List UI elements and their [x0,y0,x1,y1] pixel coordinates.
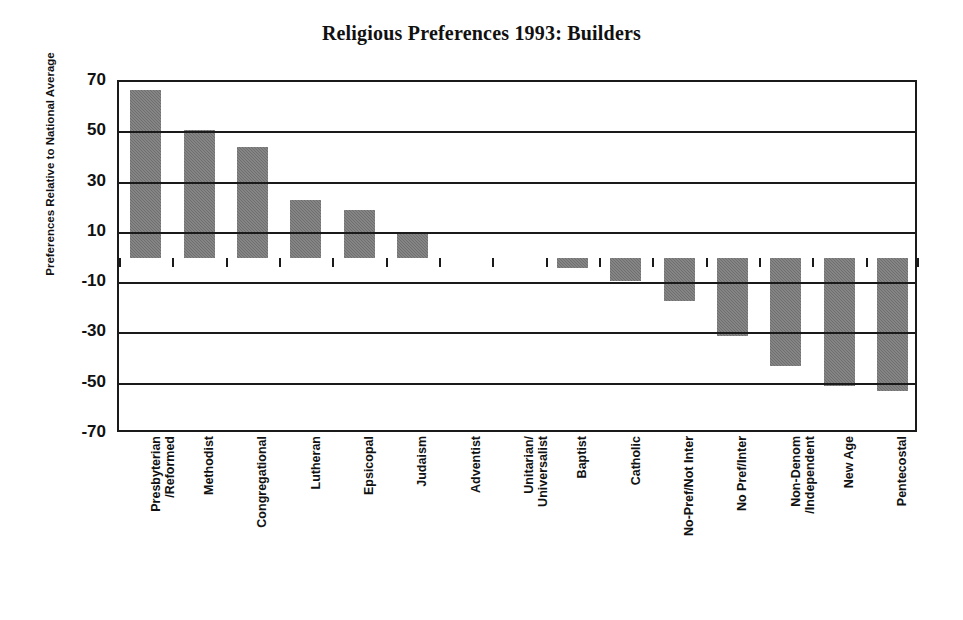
x-tick-mark [599,258,601,267]
y-tick-label: -50 [42,372,106,392]
x-axis-label: Judaism [416,436,430,606]
gridline--50 [119,383,915,385]
x-tick-mark [226,258,228,267]
bar [290,200,321,258]
x-tick-mark [812,258,814,267]
gridline-30 [119,182,915,184]
x-axis-label: Pentecostal [896,436,910,606]
x-axis-label: Epsicopal [363,436,377,606]
x-axis-label: Unitarian/ Universalist [523,436,550,606]
x-axis-label: No-Pref/Not Inter [683,436,697,606]
bar [237,147,268,258]
x-tick-mark [492,258,494,267]
x-tick-mark [279,258,281,267]
gridline--10 [119,282,915,284]
y-tick-label: 70 [42,70,106,90]
bar [557,258,588,268]
x-axis-label: Presbyterian /Reformed [150,436,177,606]
x-axis-category-labels: Presbyterian /ReformedMethodistCongregat… [117,436,917,616]
y-tick-label: -70 [42,422,106,442]
x-axis-label: Adventist [470,436,484,606]
y-tick-label: -30 [42,321,106,341]
bar [717,258,748,336]
x-tick-mark [332,258,334,267]
x-tick-mark [866,258,868,267]
x-axis-label: Baptist [576,436,590,606]
bar [877,258,908,391]
bar [770,258,801,366]
chart-figure: Religious Preferences 1993: Builders Pre… [0,0,963,620]
x-axis-label: Lutheran [310,436,324,606]
x-tick-mark [652,258,654,267]
x-tick-mark [546,258,548,267]
bar [397,233,428,258]
x-tick-mark [706,258,708,267]
x-axis-label: No Pref/Inter [736,436,750,606]
x-tick-mark [119,258,121,267]
x-axis-label: Methodist [203,436,217,606]
y-tick-label: 50 [42,120,106,140]
x-tick-mark [439,258,441,267]
x-tick-mark [917,258,919,267]
bar [184,130,215,258]
gridline--30 [119,332,915,334]
x-tick-mark [172,258,174,267]
x-axis-label: Congregational [256,436,270,606]
gridline-10 [119,232,915,234]
bar [664,258,695,301]
x-axis-label: Non-Denom /Independent [790,436,817,606]
bars-layer [119,82,915,430]
bar [344,210,375,258]
bar [824,258,855,386]
y-tick-label: -10 [42,271,106,291]
x-axis-label: New Age [843,436,857,606]
y-tick-label: 10 [42,221,106,241]
x-tick-mark [386,258,388,267]
gridline-50 [119,131,915,133]
plot-area [117,80,917,432]
x-tick-mark [759,258,761,267]
bar [610,258,641,281]
chart-title: Religious Preferences 1993: Builders [0,22,963,45]
y-tick-label: 30 [42,171,106,191]
x-axis-label: Catholic [630,436,644,606]
